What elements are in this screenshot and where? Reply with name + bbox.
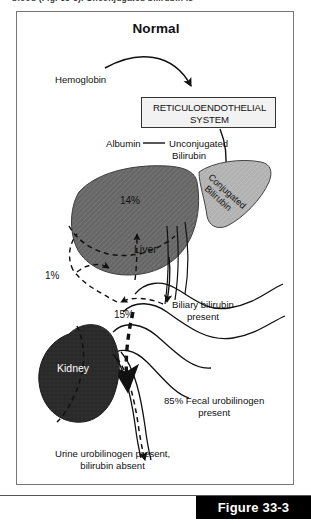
res-box-line2: SYSTEM	[142, 114, 277, 125]
label-biliary-line1: Biliary bilirubin	[172, 299, 234, 310]
dashed-arrow-urine-flow	[117, 358, 145, 460]
label-biliary-bilirubin: Biliary bilirubin present	[172, 299, 234, 322]
label-urine-line1: Urine urobilinogen present,	[55, 448, 170, 459]
label-liver: Liver	[134, 244, 157, 256]
label-hemoglobin: Hemoglobin	[55, 74, 106, 86]
running-header-text: blood (Fig. 33-3). Unconjugated bilirubi…	[12, 0, 193, 3]
label-biliary-line2: present	[172, 311, 234, 323]
label-kidney: Kidney	[57, 363, 89, 375]
label-percent-urine: 1%	[45, 270, 59, 282]
liver-shape	[72, 166, 199, 275]
label-percent-liver: 14%	[120, 195, 140, 207]
label-unconjugated-bilirubin-line1: Unconjugated	[169, 138, 228, 150]
label-urine-urobilinogen: Urine urobilinogen present, bilirubin ab…	[55, 448, 170, 471]
res-box-line1: RETICULOENDOTHELIAL	[142, 102, 277, 113]
figure-caption-text: Figure 33-3	[196, 500, 311, 515]
label-fecal-line2: present	[164, 407, 264, 419]
reticuloendothelial-system-box: RETICULOENDOTHELIAL SYSTEM	[141, 97, 276, 128]
label-fecal-urobilinogen: 85% Fecal urobilinogen present	[164, 395, 264, 418]
figure-caption-bar: Figure 33-3	[196, 496, 311, 519]
label-albumin: Albumin	[106, 138, 141, 150]
label-urine-line2: bilirubin absent	[55, 460, 170, 472]
dashed-path-return	[73, 270, 117, 302]
arrow-hemoglobin-to-res	[105, 57, 191, 86]
label-percent-enterohepatic: 15%	[114, 309, 134, 321]
label-fecal-line1: 85% Fecal urobilinogen	[164, 395, 264, 406]
running-header: blood (Fig. 33-3). Unconjugated bilirubi…	[0, 0, 311, 9]
label-unconjugated-bilirubin-line2: Bilirubin	[172, 150, 206, 162]
figure-frame: Normal	[16, 11, 294, 485]
intestine-loop-bottom	[109, 350, 189, 398]
